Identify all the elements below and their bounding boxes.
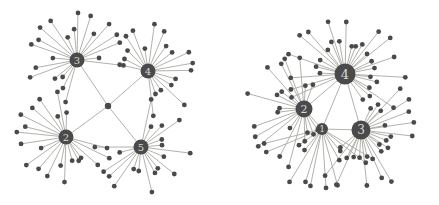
leaf-node bbox=[318, 71, 323, 76]
hub-edge bbox=[108, 71, 148, 106]
leaf-node bbox=[311, 82, 316, 87]
leaf-node bbox=[367, 85, 372, 90]
leaf-node bbox=[29, 42, 34, 47]
leaf-node bbox=[329, 40, 334, 45]
hub-label-3: 3 bbox=[357, 123, 365, 137]
leaf-node bbox=[76, 10, 81, 15]
leaf-node bbox=[337, 158, 342, 163]
leaf-node bbox=[190, 61, 195, 66]
leaf-node bbox=[153, 92, 158, 97]
leaf-node bbox=[337, 39, 342, 44]
leaf-node bbox=[360, 97, 365, 102]
leaf-edge bbox=[289, 109, 304, 167]
hub-label-5: 5 bbox=[138, 142, 144, 153]
leaf-node bbox=[105, 146, 110, 151]
leaf-node bbox=[372, 66, 377, 71]
leaf-node bbox=[287, 180, 292, 185]
leaf-node bbox=[289, 87, 294, 92]
leaf-node bbox=[155, 166, 160, 171]
leaf-node bbox=[398, 86, 403, 91]
leaf-node bbox=[152, 22, 157, 27]
hub-label-2: 2 bbox=[63, 132, 69, 143]
leaf-node bbox=[297, 55, 302, 60]
leaf-node bbox=[107, 156, 112, 161]
leaf-node bbox=[131, 167, 136, 172]
leaf-node bbox=[252, 124, 257, 129]
leaf-node bbox=[91, 31, 96, 36]
leaf-node bbox=[107, 174, 112, 179]
leaf-node bbox=[159, 137, 164, 142]
leaf-node bbox=[306, 30, 311, 35]
leaf-node bbox=[150, 190, 155, 195]
leaf-node bbox=[70, 158, 75, 163]
leaf-node bbox=[177, 118, 182, 123]
leaf-node bbox=[367, 94, 372, 99]
leaf-node bbox=[265, 65, 270, 70]
leaf-node bbox=[189, 68, 194, 73]
leaf-node bbox=[14, 130, 19, 135]
leaf-node bbox=[368, 74, 373, 79]
leaf-node bbox=[334, 182, 339, 187]
leaf-node bbox=[324, 186, 329, 191]
hub-label-2: 2 bbox=[301, 103, 308, 116]
leaf-edge bbox=[306, 129, 322, 182]
node-layer: 4213 bbox=[245, 19, 416, 190]
leaf-node bbox=[79, 155, 84, 160]
leaf-node bbox=[344, 156, 349, 161]
leaf-node bbox=[253, 134, 258, 139]
leaf-node bbox=[363, 160, 368, 165]
leaf-node bbox=[279, 61, 284, 66]
leaf-node bbox=[289, 95, 294, 100]
leaf-node bbox=[65, 35, 70, 40]
leaf-node bbox=[95, 163, 100, 168]
leaf-node bbox=[379, 149, 384, 154]
leaf-node bbox=[391, 105, 396, 110]
leaf-node bbox=[122, 57, 127, 62]
leaf-node bbox=[170, 50, 175, 55]
leaf-node bbox=[33, 65, 38, 70]
leaf-node bbox=[386, 145, 391, 150]
leaf-node bbox=[364, 183, 369, 188]
hub-edge bbox=[108, 106, 141, 147]
leaf-node bbox=[188, 151, 193, 156]
leaf-node bbox=[153, 171, 158, 176]
leaf-node bbox=[275, 92, 280, 97]
leaf-node bbox=[39, 146, 44, 151]
edge-layer bbox=[17, 13, 193, 192]
leaf-node bbox=[374, 80, 379, 85]
leaf-node bbox=[314, 64, 319, 69]
leaf-node bbox=[19, 141, 24, 146]
leaf-node bbox=[161, 154, 166, 159]
leaf-node bbox=[388, 134, 393, 139]
leaf-node bbox=[279, 89, 284, 94]
leaf-node bbox=[302, 148, 307, 153]
leaf-node bbox=[392, 55, 397, 60]
leaf-node bbox=[256, 144, 261, 149]
leaf-node bbox=[172, 172, 177, 177]
hub-label-4: 4 bbox=[341, 67, 349, 82]
leaf-node bbox=[88, 14, 93, 19]
leaf-node bbox=[151, 113, 156, 118]
hub-edge bbox=[66, 106, 108, 137]
leaf-node bbox=[344, 20, 349, 25]
leaf-node bbox=[378, 108, 383, 113]
hub-label-1: 1 bbox=[319, 124, 325, 134]
leaf-node bbox=[63, 100, 68, 105]
figure-canvas: 34254213 bbox=[0, 0, 439, 205]
leaf-node bbox=[349, 44, 354, 49]
leaf-node bbox=[410, 134, 415, 139]
leaf-node bbox=[55, 114, 60, 119]
leaf-node bbox=[131, 28, 136, 33]
leaf-node bbox=[297, 143, 302, 148]
leaf-edge bbox=[310, 129, 322, 186]
leaf-node bbox=[403, 75, 408, 80]
leaf-node bbox=[286, 164, 291, 169]
leaf-node bbox=[377, 142, 382, 147]
leaf-node bbox=[149, 97, 154, 102]
leaf-node bbox=[305, 130, 310, 135]
leaf-node bbox=[369, 59, 374, 64]
leaf-node bbox=[264, 150, 269, 155]
leaf-node bbox=[379, 176, 384, 181]
leaf-node bbox=[149, 124, 154, 129]
leaf-node bbox=[124, 34, 129, 39]
